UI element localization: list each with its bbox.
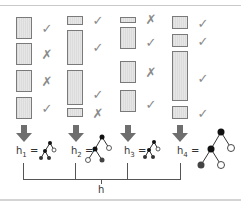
down-arrow-icon-1 [15,125,33,143]
box-1-3 [16,70,32,92]
box-4-3 [172,51,188,101]
box-2-2 [67,30,83,65]
tree-2-icon [83,133,113,169]
tree-3-icon [140,138,164,164]
mark-3-1: ✗ [145,13,157,26]
box-1-1 [16,17,32,39]
mark-4-3: ✓ [197,72,209,85]
box-2-3 [67,70,83,105]
mark-4-2: ✓ [197,35,209,48]
mark-1-1: ✓ [41,22,53,35]
top-divider [0,5,241,6]
tree-4-icon [196,125,240,175]
mark-3-2: ✓ [145,36,157,49]
box-4-1 [172,16,188,29]
box-3-3 [120,61,136,83]
box-2-4 [67,108,83,117]
box-1-2 [16,43,32,65]
mark-2-1: ✓ [92,14,104,27]
down-arrow-icon-3 [119,125,137,143]
box-1-4 [16,97,32,119]
mark-4-1: ✓ [197,17,209,30]
down-arrow-icon-4 [171,125,189,143]
mark-3-3: ✗ [145,66,157,79]
box-3-4 [120,90,136,112]
tree-1-icon [36,138,60,164]
box-3-2 [120,27,136,49]
mark-2-4: ✗ [92,107,104,120]
bottom-divider [0,199,241,201]
box-4-4 [172,106,188,119]
mark-2-2: ✓ [92,41,104,54]
mark-4-4: ✓ [197,107,209,120]
mark-3-4: ✓ [145,98,157,111]
mark-1-3: ✗ [41,75,53,88]
mark-2-3: ✓ [92,88,104,101]
combined-h-label: h [98,184,104,195]
mark-1-2: ✗ [41,48,53,61]
box-2-1 [67,16,83,25]
box-4-2 [172,34,188,47]
mark-1-4: ✓ [41,102,53,115]
box-3-1 [120,17,136,23]
